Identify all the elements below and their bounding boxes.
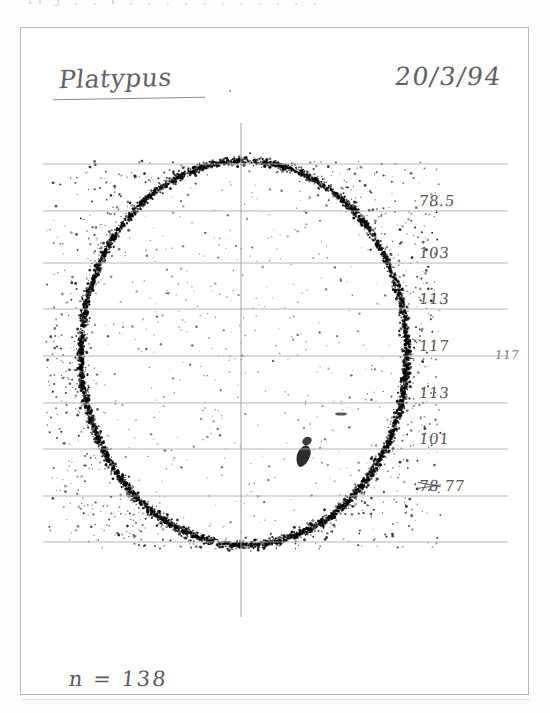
page-title: Platypus [57, 63, 173, 94]
dot-cloud [45, 152, 441, 551]
dot-density-plot [21, 28, 530, 696]
title-period-mark [229, 90, 231, 92]
gridline-value-5: 113 [418, 384, 450, 402]
title-block: Platypus [59, 64, 172, 93]
sheet-bottom-shadow [22, 699, 530, 700]
record-sheet-frame: Platypus 20/3/94 n = 138 78.510311311711… [20, 27, 529, 695]
plot-area [21, 28, 530, 696]
outer-right-value: 117 [494, 348, 520, 362]
gridline-value-7: 78 77 [418, 477, 466, 495]
scan-top-edge-artifact: fi j , , i ; , , ; ; , , , , , , [0, 0, 550, 16]
ghost-header-text: fi j , , i ; , , ; ; , , , , , , [28, 0, 322, 7]
gridline-value-3: 113 [418, 290, 450, 308]
date-label: 20/3/94 [393, 62, 504, 91]
gridline-value-1: 78.5 [418, 192, 456, 210]
struck-value: 78 [418, 477, 440, 495]
gridline-value-4: 117 [418, 337, 450, 355]
sample-size-label: n = 138 [68, 667, 169, 691]
corrected-value: 77 [438, 477, 466, 495]
gridline-value-6: 101 [418, 430, 450, 448]
gridline-value-2: 103 [418, 244, 450, 262]
